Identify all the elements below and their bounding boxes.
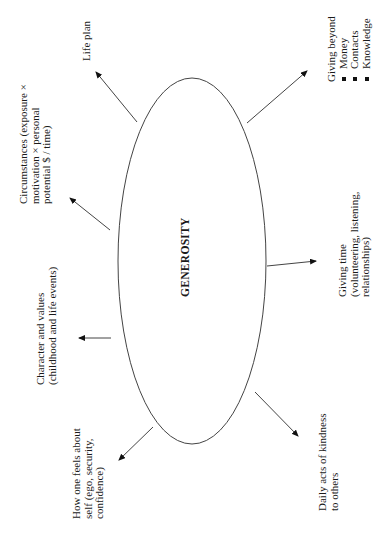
node-giving-time: Giving time (volunteering, listening, re… xyxy=(337,192,372,297)
node-line: Giving time xyxy=(337,192,349,297)
node-giving-beyond: Giving beyond Money Contacts Knowledge xyxy=(326,16,372,82)
node-self-feeling: How one feels about self (ego, security,… xyxy=(71,428,106,519)
generosity-ellipse xyxy=(118,78,266,444)
node-character-values: Character and values (childhood and life… xyxy=(35,267,58,385)
node-line: confidence) xyxy=(94,428,106,519)
arrow-life-plan xyxy=(96,72,137,122)
node-line: Life plan xyxy=(81,21,93,61)
node-daily-acts: Daily acts of kindness to others xyxy=(317,414,340,511)
list-item-label: Contacts xyxy=(348,31,360,70)
giving-beyond-list: Money Contacts Knowledge xyxy=(338,16,373,82)
center-label-generosity: GENEROSITY xyxy=(180,217,192,297)
node-line: Circumstances (exposure × xyxy=(18,84,30,204)
arrow-circumstances xyxy=(70,198,110,230)
arrow-self-feeling xyxy=(119,427,153,460)
square-bullet-icon xyxy=(365,77,369,81)
list-item-label: Knowledge xyxy=(360,18,372,69)
node-line: potential $ / time) xyxy=(41,84,53,204)
arrow-daily-acts xyxy=(255,392,298,436)
list-item-label: Money xyxy=(337,38,349,69)
square-bullet-icon xyxy=(342,77,346,81)
center-label-text: GENEROSITY xyxy=(179,217,191,297)
node-life-plan: Life plan xyxy=(81,21,93,61)
node-line: to others xyxy=(329,414,341,511)
list-item: Knowledge xyxy=(361,16,373,82)
arrow-giving-time xyxy=(267,261,316,266)
node-line: Character and values xyxy=(35,267,47,385)
arrow-giving-beyond xyxy=(247,71,307,123)
node-circumstances: Circumstances (exposure × motivation × p… xyxy=(18,84,53,204)
node-line: Daily acts of kindness xyxy=(317,414,329,511)
square-bullet-icon xyxy=(353,77,357,81)
node-line: How one feels about xyxy=(71,428,83,519)
node-line: (childhood and life events) xyxy=(47,267,59,385)
node-line: relationships) xyxy=(360,192,372,297)
